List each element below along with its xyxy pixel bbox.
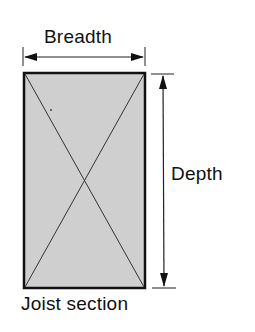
breadth-arrowhead-right-icon [131,53,144,61]
speck [50,109,52,111]
breadth-label: Breadth [44,27,112,46]
depth-arrowhead-top-icon [159,75,167,89]
depth-dimension-line [163,76,164,286]
depth-label: Depth [171,164,223,183]
depth-arrowhead-bottom-icon [160,273,168,287]
breadth-arrowhead-left-icon [24,53,37,61]
caption-label: Joist section [21,294,128,313]
